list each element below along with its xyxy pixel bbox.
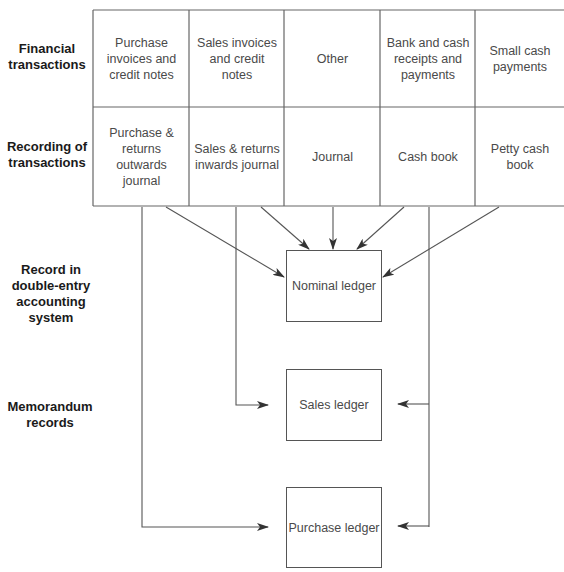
cell-text: Purchase & returns outwards journal: [97, 125, 186, 189]
cell-text: Purchase invoices and credit notes: [97, 35, 186, 83]
cell-text: Sales & returns inwards journal: [193, 141, 281, 173]
cell-text: Bank and cash receipts and payments: [384, 35, 472, 83]
cell-text: Journal: [312, 149, 353, 165]
cell-purchase-journal: Purchase & returns outwards journal: [94, 108, 189, 206]
cell-sales-invoices: Sales invoices and credit notes: [190, 11, 284, 107]
cell-sales-journal: Sales & returns inwards journal: [190, 108, 284, 206]
purchase-ledger-box: Purchase ledger: [286, 487, 382, 568]
ledger-text: Nominal ledger: [292, 278, 376, 294]
cell-text: Small cash payments: [479, 43, 561, 75]
ledger-text: Sales ledger: [299, 397, 369, 413]
cell-text: Other: [317, 51, 348, 67]
nominal-ledger-box: Nominal ledger: [286, 250, 382, 322]
cell-purchase-invoices: Purchase invoices and credit notes: [94, 11, 189, 107]
cell-small-cash-payments: Small cash payments: [476, 11, 564, 107]
cell-text: Cash book: [398, 149, 458, 165]
cell-petty-cash-book: Petty cash book: [476, 108, 564, 206]
cell-journal: Journal: [285, 108, 380, 206]
sales-ledger-box: Sales ledger: [286, 369, 382, 441]
cell-other: Other: [285, 11, 380, 107]
cell-cash-book: Cash book: [381, 108, 475, 206]
cell-text: Sales invoices and credit notes: [193, 35, 281, 83]
cell-bank-cash-receipts: Bank and cash receipts and payments: [381, 11, 475, 107]
cell-text: Petty cash book: [479, 141, 561, 173]
ledger-text: Purchase ledger: [288, 520, 379, 536]
